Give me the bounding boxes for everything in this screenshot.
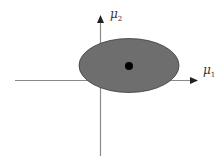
x-axis-arrow-icon: [190, 77, 198, 84]
x-axis-label: μ1: [203, 63, 215, 79]
center-point: [125, 62, 133, 70]
confidence-region-diagram: μ2 μ1: [0, 0, 223, 168]
y-axis-label: μ2: [110, 7, 122, 23]
y-axis-arrow-icon: [97, 15, 104, 23]
